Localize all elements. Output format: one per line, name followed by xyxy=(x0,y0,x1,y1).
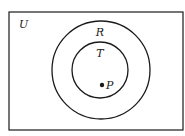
universe-label: U xyxy=(19,18,29,31)
set-t-label: T xyxy=(96,47,105,60)
point-p-label: P xyxy=(105,79,114,92)
venn-diagram: U R T P xyxy=(0,0,185,136)
point-p-dot xyxy=(100,83,104,87)
set-r-label: R xyxy=(95,26,104,39)
